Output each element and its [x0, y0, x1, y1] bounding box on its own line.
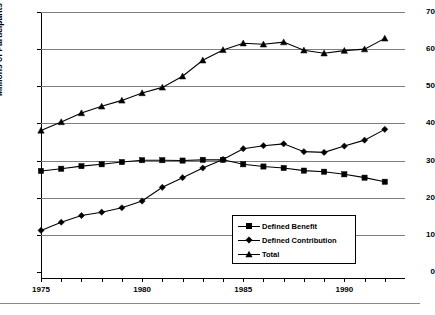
x-tick-mark [223, 278, 224, 282]
data-point-square [140, 158, 145, 163]
x-tick-mark [304, 278, 305, 282]
data-point-diamond [260, 143, 266, 149]
legend-label: Total [260, 250, 279, 259]
x-tick-mark [263, 278, 264, 282]
triangle-marker-icon [238, 249, 260, 259]
data-point-square [261, 164, 266, 169]
y-tick-label: 50 [411, 82, 435, 90]
footer-divider [0, 303, 420, 304]
legend-label: Defined Benefit [260, 222, 317, 231]
y-tick-label: 20 [411, 194, 435, 202]
y-axis-title: Millions of Participants [0, 3, 4, 96]
legend-item-total: Total [238, 247, 355, 261]
x-tick-label: 1985 [234, 285, 252, 294]
data-point-triangle [200, 57, 206, 63]
data-point-square [79, 164, 84, 169]
x-tick-label: 1975 [32, 285, 50, 294]
data-point-diamond [200, 165, 206, 171]
data-point-square [241, 162, 246, 167]
y-tick-label: 10 [411, 231, 435, 239]
data-point-diamond [382, 126, 388, 132]
x-tick-mark [365, 278, 366, 282]
series-line-square [41, 160, 385, 182]
x-tick-mark [243, 278, 244, 282]
data-point-diamond [179, 175, 185, 181]
data-point-diamond [321, 149, 327, 155]
data-point-diamond [139, 198, 145, 204]
data-point-square [382, 179, 387, 184]
data-point-diamond [99, 209, 105, 215]
data-point-square [200, 157, 205, 162]
x-tick-mark [81, 278, 82, 282]
x-tick-mark [41, 278, 42, 282]
data-point-triangle [58, 119, 64, 125]
y-tick-label: 70 [411, 8, 435, 16]
data-point-diamond [281, 141, 287, 147]
x-tick-label: 1980 [133, 285, 151, 294]
data-point-diamond [119, 205, 125, 211]
square-marker-icon [238, 221, 260, 231]
data-point-square [59, 166, 64, 171]
y-tick-label: 0 [411, 268, 435, 276]
data-point-square [342, 172, 347, 177]
data-point-diamond [301, 149, 307, 155]
data-point-diamond [58, 219, 64, 225]
data-point-square [38, 168, 43, 173]
data-point-square [180, 158, 185, 163]
data-point-triangle [301, 47, 307, 53]
y-tick-label: 40 [411, 119, 435, 127]
data-point-diamond [341, 143, 347, 149]
x-tick-mark [162, 278, 163, 282]
y-tick-label: 30 [411, 157, 435, 165]
data-point-square [322, 169, 327, 174]
x-tick-mark [122, 278, 123, 282]
x-tick-mark [324, 278, 325, 282]
data-point-diamond [159, 184, 165, 190]
data-point-diamond [78, 212, 84, 218]
x-tick-mark [344, 278, 345, 282]
y-tick-label: 60 [411, 45, 435, 53]
x-tick-mark [61, 278, 62, 282]
data-point-triangle [382, 35, 388, 41]
legend-item-defined-benefit: Defined Benefit [238, 219, 355, 233]
data-point-diamond [38, 227, 44, 233]
data-point-square [301, 168, 306, 173]
x-tick-label: 1990 [335, 285, 353, 294]
x-tick-mark [102, 278, 103, 282]
data-point-triangle [159, 84, 165, 90]
data-point-triangle [38, 127, 44, 133]
data-point-diamond [361, 137, 367, 143]
data-point-diamond [240, 146, 246, 152]
legend-item-defined-contribution: Defined Contribution [238, 233, 355, 247]
data-point-square [99, 162, 104, 167]
x-tick-mark [284, 278, 285, 282]
chart-legend: Defined Benefit Defined Contribution Tot… [232, 215, 356, 264]
data-point-square [160, 158, 165, 163]
chart-figure: Millions of Participants 010203040506070… [0, 0, 435, 315]
x-tick-mark [142, 278, 143, 282]
data-point-square [362, 175, 367, 180]
legend-label: Defined Contribution [260, 236, 337, 245]
x-tick-mark [385, 278, 386, 282]
x-tick-mark [183, 278, 184, 282]
diamond-marker-icon [238, 235, 260, 245]
x-tick-mark [203, 278, 204, 282]
data-point-square [119, 159, 124, 164]
series-line-triangle [41, 38, 385, 130]
data-point-square [281, 165, 286, 170]
